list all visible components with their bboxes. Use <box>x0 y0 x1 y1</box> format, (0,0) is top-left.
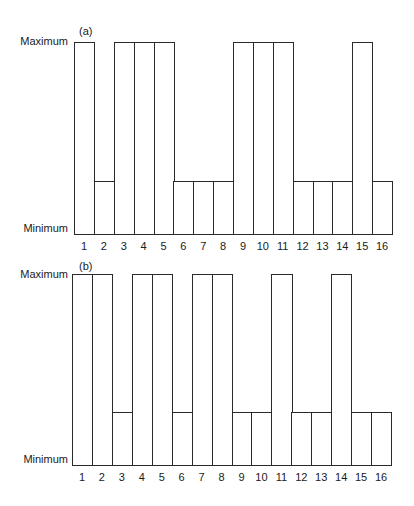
x-tick-label: 16 <box>372 240 392 252</box>
bar-1 <box>72 274 93 466</box>
x-tick-label: 9 <box>233 240 253 252</box>
bar-3 <box>114 42 135 235</box>
bar-8 <box>213 181 234 235</box>
bar-4 <box>132 274 153 466</box>
bar-2 <box>94 181 115 235</box>
y-min-label: Minimum <box>0 453 68 465</box>
x-tick-label: 13 <box>311 471 331 483</box>
bar-7 <box>192 274 213 466</box>
bar-14 <box>331 274 352 466</box>
bar-10 <box>253 42 274 235</box>
bar-10 <box>251 412 272 466</box>
x-tick-label: 4 <box>132 471 152 483</box>
panel-b: (b) Maximum Minimum 12345678910111213141… <box>0 253 414 506</box>
bar-6 <box>173 181 194 235</box>
x-tick-label: 16 <box>371 471 391 483</box>
bar-16 <box>372 181 393 235</box>
bar-15 <box>352 42 373 235</box>
panel-label: (a) <box>79 25 92 37</box>
x-tick-label: 6 <box>172 471 192 483</box>
x-tick-label: 7 <box>193 240 213 252</box>
panel-label: (b) <box>79 260 92 272</box>
bar-11 <box>273 42 294 235</box>
x-tick-label: 14 <box>331 471 351 483</box>
x-tick-label: 13 <box>312 240 332 252</box>
x-tick-label: 2 <box>94 240 114 252</box>
bar-7 <box>193 181 214 235</box>
x-tick-label: 12 <box>293 240 313 252</box>
bar-9 <box>233 42 254 235</box>
bar-5 <box>152 274 173 466</box>
bar-plot <box>72 274 391 466</box>
x-tick-label: 11 <box>271 471 291 483</box>
x-tick-label: 12 <box>291 471 311 483</box>
x-tick-label: 11 <box>273 240 293 252</box>
x-tick-label: 8 <box>213 240 233 252</box>
x-tick-label: 14 <box>332 240 352 252</box>
bar-11 <box>271 274 292 466</box>
y-max-label: Maximum <box>0 35 68 47</box>
bar-3 <box>112 412 133 466</box>
x-tick-label: 10 <box>251 471 271 483</box>
bar-6 <box>172 412 193 466</box>
x-tick-label: 15 <box>352 240 372 252</box>
x-tick-label: 9 <box>231 471 251 483</box>
x-tick-label: 1 <box>74 240 94 252</box>
bar-16 <box>371 412 392 466</box>
y-min-label: Minimum <box>0 222 68 234</box>
x-tick-label: 5 <box>153 240 173 252</box>
bar-12 <box>291 412 312 466</box>
x-tick-label: 3 <box>112 471 132 483</box>
x-tick-label: 10 <box>253 240 273 252</box>
bar-2 <box>92 274 113 466</box>
x-tick-label: 5 <box>152 471 172 483</box>
bar-4 <box>134 42 155 235</box>
x-tick-label: 8 <box>212 471 232 483</box>
bar-5 <box>154 42 175 235</box>
bar-plot <box>74 42 392 235</box>
x-tick-label: 1 <box>72 471 92 483</box>
bar-15 <box>351 412 372 466</box>
x-tick-label: 2 <box>92 471 112 483</box>
bar-1 <box>74 42 95 235</box>
x-tick-label: 15 <box>351 471 371 483</box>
x-tick-label: 4 <box>134 240 154 252</box>
bar-13 <box>311 412 332 466</box>
bar-9 <box>232 412 253 466</box>
x-tick-label: 3 <box>114 240 134 252</box>
bar-12 <box>293 181 314 235</box>
bar-13 <box>313 181 334 235</box>
panel-a: (a) Maximum Minimum 12345678910111213141… <box>0 0 414 253</box>
bar-14 <box>332 181 353 235</box>
x-tick-label: 7 <box>192 471 212 483</box>
x-tick-label: 6 <box>173 240 193 252</box>
y-max-label: Maximum <box>0 268 68 280</box>
bar-8 <box>212 274 233 466</box>
